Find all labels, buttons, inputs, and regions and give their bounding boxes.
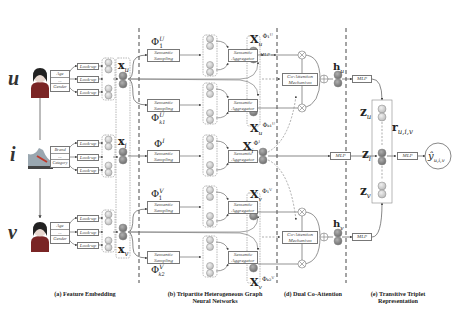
mlp-box: MLP (330, 152, 351, 160)
lookup-box: Look-up (77, 76, 99, 83)
xv-label: xv (118, 244, 129, 258)
lookup-box: Look-up (77, 89, 99, 96)
mlp-box: MLP (397, 152, 418, 160)
phi-v1-label: ΦV1 (151, 188, 162, 201)
user-attributes: Age ... Gender (50, 70, 70, 92)
zv-label: zv (360, 185, 371, 200)
sharer-v-symbol: v (8, 222, 17, 242)
sharer-attributes: Age ... Gender (50, 222, 70, 244)
caption-transitive-triplet: (e) Transitive TripletRepresentation (358, 290, 438, 304)
caption-feature-embedding: (a) Feature Embedding (40, 290, 130, 297)
output-y-label: ŷu,i,v (428, 151, 444, 163)
X-v1-label: XvΦ₁ⱽ (250, 188, 272, 202)
attr-gender: Gender (51, 236, 69, 243)
lookup-box: Look-up (77, 242, 99, 249)
user-u-avatar-icon (28, 66, 52, 98)
semantic-aggregator-box: SemanticAggregator (228, 99, 258, 112)
phi-i-label: ΦI (154, 138, 165, 149)
architecture-diagram: u i v Age ... Gender Brand ... Category … (0, 0, 462, 317)
phi-u1-label: ΦU1 (151, 36, 163, 49)
semantic-aggregator-box: SemanticAggregator (228, 251, 258, 264)
coattention-box-u: Co-AttentionMechanism (282, 73, 318, 86)
phi-vk-label: ΦVk2 (151, 264, 165, 277)
semantic-sampling-box: SemanticSampling (147, 201, 180, 214)
X-u1-label: XuΦ₁ᵁ (250, 33, 273, 47)
X-i-label: XiΦᴵ (243, 140, 260, 154)
coattention-box-v: Co-AttentionMechanism (282, 231, 318, 244)
zi-label: zi (362, 148, 371, 163)
lookup-box: Look-up (77, 140, 99, 147)
caption-dual-coattention: (d) Dual Co-Attention (278, 290, 348, 297)
X-vk-label: XvΦₖ₂ⱽ (250, 276, 274, 290)
lookup-box: Look-up (77, 167, 99, 174)
hv-label: hv (333, 219, 344, 231)
semantic-aggregator-box: SemanticAggregator (228, 49, 258, 62)
user-v-avatar-icon (28, 220, 52, 252)
semantic-sampling-box: SemanticSampling (147, 49, 180, 62)
lookup-box: Look-up (77, 215, 99, 222)
attr-gender: Gender (51, 84, 69, 91)
item-i-symbol: i (10, 144, 16, 164)
lookup-box: Look-up (77, 229, 99, 236)
xu-label: xu (118, 60, 129, 74)
lookup-box: Look-up (77, 63, 99, 70)
mlp-box: MLP (352, 233, 372, 241)
item-attributes: Brand ... Category (50, 146, 70, 168)
lookup-box: Look-up (77, 154, 99, 161)
mlp-box: MLP (352, 75, 372, 83)
user-u-symbol: u (8, 68, 19, 88)
caption-thgnn: (b) Tripartite Heterogeneous GraphNeural… (145, 290, 285, 304)
r-triplet-label: ru,i,v (392, 122, 413, 136)
xi-label: xi (118, 136, 127, 150)
zu-label: zu (360, 106, 371, 121)
hu-label: hu (333, 62, 344, 74)
phi-uk-label: ΦUk1 (151, 112, 165, 125)
X-uk-label: XuΦₖ₁ᵁ (250, 122, 275, 136)
attr-category: Category (51, 160, 69, 167)
semantic-aggregator-box: SemanticAggregator (228, 201, 258, 214)
semantic-sampling-box: SemanticSampling (147, 150, 180, 163)
